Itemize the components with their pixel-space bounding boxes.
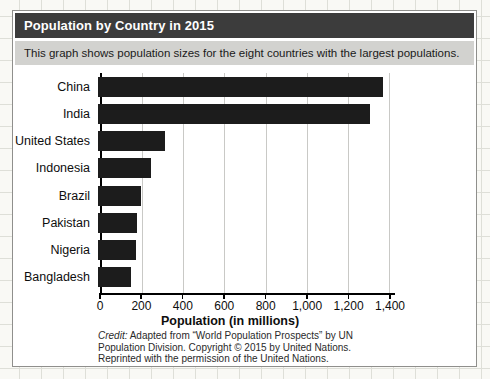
x-tick-label: 1,400 <box>375 299 405 313</box>
credit-label: Credit: <box>98 330 127 341</box>
category-label: India <box>15 107 96 121</box>
bar-track <box>98 158 388 178</box>
figure-title-bar: Population by Country in 2015 <box>15 13 474 38</box>
credit-line-1-text: Adapted from “World Population Prospects… <box>127 330 352 341</box>
bar <box>98 77 383 97</box>
chart-row: Nigeria <box>15 237 392 264</box>
figure-title: Population by Country in 2015 <box>24 18 214 33</box>
chart-rows: ChinaIndiaUnited StatesIndonesiaBrazilPa… <box>15 73 392 291</box>
credit-line-2: Population Division. Copyright © 2015 by… <box>98 342 428 354</box>
bar <box>98 240 136 260</box>
x-axis-ticks: 02004006008001,0001,2001,400 <box>100 295 390 315</box>
page-background: { "header": { "title": "Population by Co… <box>0 0 490 379</box>
chart-row: India <box>15 100 392 127</box>
bar-track <box>98 186 388 206</box>
credit-text: Credit: Adapted from “World Population P… <box>98 330 428 365</box>
chart-row: Indonesia <box>15 155 392 182</box>
bar-track <box>98 104 388 124</box>
category-label: Pakistan <box>15 216 96 230</box>
chart-row: United States <box>15 128 392 155</box>
bar-track <box>98 240 388 260</box>
x-tick-label: 0 <box>97 299 104 313</box>
chart-row: China <box>15 73 392 100</box>
bar-track <box>98 131 388 151</box>
chart-row: Brazil <box>15 182 392 209</box>
figure-box: Population by Country in 2015 This graph… <box>12 10 477 367</box>
credit-line-1: Credit: Adapted from “World Population P… <box>98 330 428 342</box>
x-tick-label: 1,200 <box>334 299 364 313</box>
bar <box>98 104 370 124</box>
bar <box>98 267 131 287</box>
chart-row: Pakistan <box>15 209 392 236</box>
chart-row: Bangladesh <box>15 264 392 291</box>
x-tick-label: 200 <box>131 299 151 313</box>
x-axis-title: Population (in millions) <box>85 314 375 328</box>
category-label: United States <box>15 134 96 148</box>
bar <box>98 186 141 206</box>
x-tick-label: 1,000 <box>292 299 322 313</box>
x-tick-label: 800 <box>256 299 276 313</box>
bar <box>98 131 165 151</box>
figure-subtitle: This graph shows population sizes for th… <box>24 47 459 59</box>
figure-subtitle-bar: This graph shows population sizes for th… <box>15 41 474 65</box>
category-label: China <box>15 80 96 94</box>
bar-chart: ChinaIndiaUnited StatesIndonesiaBrazilPa… <box>15 65 474 363</box>
bar-track <box>98 267 388 287</box>
bar-track <box>98 77 388 97</box>
x-tick-label: 400 <box>173 299 193 313</box>
bar <box>98 158 151 178</box>
category-label: Brazil <box>15 189 96 203</box>
bar-track <box>98 213 388 233</box>
category-label: Nigeria <box>15 243 96 257</box>
category-label: Bangladesh <box>15 270 96 284</box>
credit-line-3: Reprinted with the permission of the Uni… <box>98 353 428 365</box>
x-tick-label: 600 <box>214 299 234 313</box>
bar <box>98 213 137 233</box>
category-label: Indonesia <box>15 161 96 175</box>
